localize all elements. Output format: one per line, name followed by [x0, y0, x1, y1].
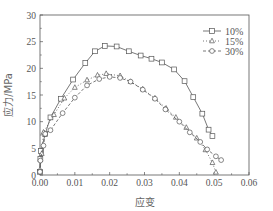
- legend-item: 30%: [203, 46, 243, 57]
- legend-label: 30%: [225, 46, 243, 57]
- x-tick-label: 0.02: [101, 178, 118, 188]
- y-tick-label: 30: [27, 11, 37, 21]
- legend: 10%15%30%: [203, 26, 243, 57]
- series-10pct: [38, 44, 215, 175]
- series-15pct: [38, 71, 219, 174]
- x-tick-label: 0.03: [136, 178, 153, 188]
- plot-frame: [40, 15, 249, 175]
- y-tick-label: 0: [31, 171, 36, 181]
- y-axis-title: 应力/MPa: [2, 73, 14, 117]
- x-tick-label: 0.01: [67, 178, 84, 188]
- y-tick-label: 15: [27, 91, 37, 101]
- y-tick-label: 10: [27, 117, 37, 127]
- series-30pct: [38, 74, 224, 174]
- x-tick-label: 0.05: [206, 178, 223, 188]
- y-tick-label: 25: [27, 37, 37, 47]
- y-tick-label: 5: [31, 144, 36, 154]
- x-tick-label: 0.04: [171, 178, 188, 188]
- x-tick-label: 0.06: [241, 178, 258, 188]
- y-tick-label: 20: [27, 64, 37, 74]
- data-series: [38, 44, 224, 175]
- x-axis-title: 应变: [135, 196, 155, 208]
- plot-border: [40, 15, 249, 175]
- stress-strain-chart: 0.000.010.020.030.040.050.06051015202530…: [0, 0, 273, 211]
